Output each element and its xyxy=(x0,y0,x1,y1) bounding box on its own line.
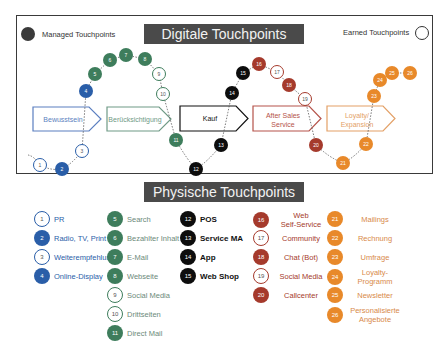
touchpoint-number-badge: 18 xyxy=(253,249,269,265)
touchpoint-number-badge: 11 xyxy=(107,325,123,341)
touchpoint-number-badge: 20 xyxy=(253,287,269,303)
touchpoint-node-18: 18 xyxy=(282,78,296,92)
touchpoint-label: Rechnung xyxy=(347,234,403,243)
touchpoint-node-8: 8 xyxy=(138,52,152,66)
svg-text:6: 6 xyxy=(109,57,112,63)
list-item-11: 11Direct Mail xyxy=(107,325,162,341)
touchpoint-node-26: 26 xyxy=(403,66,417,80)
touchpoint-number-badge: 3 xyxy=(34,249,50,265)
list-item-12: 12POS xyxy=(180,211,217,227)
list-item-21: 21Mailings xyxy=(327,211,403,227)
list-item-20: 20Callcenter xyxy=(253,287,329,303)
list-item-24: 24Loyalty-Programm xyxy=(327,268,403,286)
svg-text:24: 24 xyxy=(377,77,383,83)
list-item-2: 2Radio, TV, Print xyxy=(34,230,106,246)
touchpoint-node-3: 3 xyxy=(76,145,89,158)
svg-text:26: 26 xyxy=(407,70,413,76)
list-item-4: 4Online-Display xyxy=(34,268,103,284)
list-item-7: 7E-Mail xyxy=(107,249,148,265)
touchpoint-label: Weiterempfehlung xyxy=(54,253,115,262)
svg-text:10: 10 xyxy=(160,91,166,97)
svg-text:4: 4 xyxy=(85,88,88,94)
touchpoint-number-badge: 12 xyxy=(180,211,196,227)
touchpoint-label: WebSelf-Service xyxy=(273,211,329,229)
svg-text:25: 25 xyxy=(389,70,395,76)
phase-chevron-3: After SalesService xyxy=(253,106,321,131)
svg-text:9: 9 xyxy=(158,71,161,77)
svg-text:18: 18 xyxy=(286,82,292,88)
touchpoint-number-badge: 15 xyxy=(180,268,196,284)
touchpoint-number-badge: 16 xyxy=(253,212,269,228)
touchpoint-label: Search xyxy=(127,215,151,224)
touchpoint-number-badge: 9 xyxy=(107,287,123,303)
phase-chevron-4: Loyalty/Expansion xyxy=(327,106,395,131)
list-item-18: 18Chat (Bot) xyxy=(253,249,329,265)
list-item-9: 9Social Media xyxy=(107,287,170,303)
touchpoint-label: Service MA xyxy=(200,234,243,243)
touchpoint-node-21: 21 xyxy=(336,156,350,170)
list-item-25: 25Newsletter xyxy=(327,287,403,303)
svg-text:2: 2 xyxy=(61,166,64,172)
list-item-17: 17Community xyxy=(253,230,329,246)
list-item-23: 23Umfrage xyxy=(327,249,403,265)
touchpoint-label: Webseite xyxy=(127,272,158,281)
phase-label: Berücksichtigung xyxy=(108,116,161,124)
touchpoint-number-badge: 14 xyxy=(180,249,196,265)
svg-text:22: 22 xyxy=(363,141,369,147)
phase-label: Bewusstsein xyxy=(43,116,82,123)
list-item-8: 8Webseite xyxy=(107,268,158,284)
touchpoint-label: Loyalty-Programm xyxy=(347,268,403,286)
touchpoint-node-23: 23 xyxy=(367,89,381,103)
touchpoint-number-badge: 7 xyxy=(107,249,123,265)
svg-text:3: 3 xyxy=(81,148,84,154)
touchpoint-node-10: 10 xyxy=(157,88,170,101)
touchpoint-number-badge: 5 xyxy=(107,211,123,227)
touchpoint-number-badge: 1 xyxy=(34,211,50,227)
touchpoint-node-6: 6 xyxy=(103,53,117,67)
touchpoint-label: Drittseiten xyxy=(127,310,161,319)
touchpoint-node-14: 14 xyxy=(225,86,239,100)
list-item-16: 16WebSelf-Service xyxy=(253,211,329,229)
touchpoint-number-badge: 23 xyxy=(327,249,343,265)
touchpoint-node-1: 1 xyxy=(34,159,47,172)
list-item-6: 6Bezahlter Inhalt xyxy=(107,230,179,246)
touchpoint-node-5: 5 xyxy=(88,67,102,81)
svg-text:16: 16 xyxy=(256,61,262,67)
svg-text:13: 13 xyxy=(218,142,224,148)
svg-text:14: 14 xyxy=(229,90,235,96)
list-item-10: 10Drittseiten xyxy=(107,306,161,322)
touchpoint-node-19: 19 xyxy=(299,93,312,106)
touchpoint-node-20: 20 xyxy=(309,138,323,152)
phase-label-line1: After Sales xyxy=(266,112,301,119)
touchpoint-number-badge: 25 xyxy=(327,287,343,303)
touchpoint-label: App xyxy=(200,253,216,262)
svg-text:23: 23 xyxy=(371,93,377,99)
svg-text:7: 7 xyxy=(125,52,128,58)
touchpoint-label: Social Media xyxy=(127,291,170,300)
svg-text:17: 17 xyxy=(274,69,280,75)
touchpoint-label: PR xyxy=(54,215,64,224)
list-item-1: 1PR xyxy=(34,211,64,227)
touchpoint-node-9: 9 xyxy=(153,68,166,81)
touchpoint-number-badge: 4 xyxy=(34,268,50,284)
touchpoint-label: Bezahlter Inhalt xyxy=(127,234,179,243)
svg-text:1: 1 xyxy=(39,162,42,168)
touchpoint-node-13: 13 xyxy=(214,138,228,152)
touchpoint-label: Umfrage xyxy=(347,253,403,262)
phase-label-line1: Loyalty/ xyxy=(345,112,369,120)
touchpoint-number-badge: 8 xyxy=(107,268,123,284)
touchpoint-number-badge: 17 xyxy=(253,230,269,246)
svg-text:12: 12 xyxy=(193,166,199,172)
touchpoint-label: Direct Mail xyxy=(127,329,162,338)
phase-chevron-0: Bewusstsein xyxy=(33,107,101,131)
list-item-13: 13Service MA xyxy=(180,230,243,246)
touchpoint-label: Social Media xyxy=(273,272,329,281)
touchpoint-label: Web Shop xyxy=(200,272,239,281)
touchpoint-label: Mailings xyxy=(347,215,403,224)
journey-diagram: BewusstseinBerücksichtigungKaufAfter Sal… xyxy=(0,0,445,357)
touchpoint-node-2: 2 xyxy=(55,162,69,176)
svg-text:19: 19 xyxy=(302,96,308,102)
touchpoint-node-25: 25 xyxy=(385,66,399,80)
phase-label-line2: Service xyxy=(271,121,294,128)
touchpoint-node-12: 12 xyxy=(189,162,203,176)
